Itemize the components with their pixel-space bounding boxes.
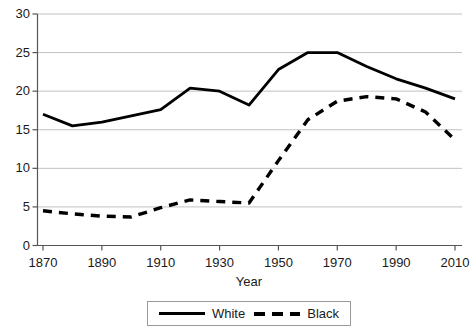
y-tick-label: 15 [0,123,30,136]
legend-entry-black[interactable]: Black [254,307,339,320]
y-axis-ticks [33,14,38,246]
x-tick-label: 1990 [371,256,421,269]
x-tick-label: 1910 [136,256,186,269]
x-tick-label: 1870 [18,256,68,269]
x-tick-label: 2010 [430,256,475,269]
legend-swatch-solid-icon [159,312,205,315]
legend-label-black: Black [307,307,339,320]
series-line-white [43,53,455,126]
legend-swatch-dashed-icon [254,312,300,316]
y-tick-label: 30 [0,7,30,20]
series-line-black [43,97,455,217]
legend: White Black [147,301,351,326]
x-tick-label: 1970 [312,256,362,269]
legend-entry-white[interactable]: White [159,307,245,320]
x-tick-label: 1950 [253,256,303,269]
line-chart: 051015202530 187018901910193019501970199… [0,0,475,335]
y-tick-label: 0 [0,239,30,252]
x-tick-label: 1930 [195,256,245,269]
y-tick-label: 20 [0,84,30,97]
gridlines [38,14,463,207]
x-axis-ticks [43,246,455,251]
y-tick-label: 25 [0,46,30,59]
x-tick-label: 1890 [77,256,127,269]
y-tick-label: 10 [0,161,30,174]
x-axis-title: Year [209,275,289,289]
y-tick-label: 5 [0,200,30,213]
legend-label-white: White [212,307,245,320]
data-series-layer [43,53,455,217]
